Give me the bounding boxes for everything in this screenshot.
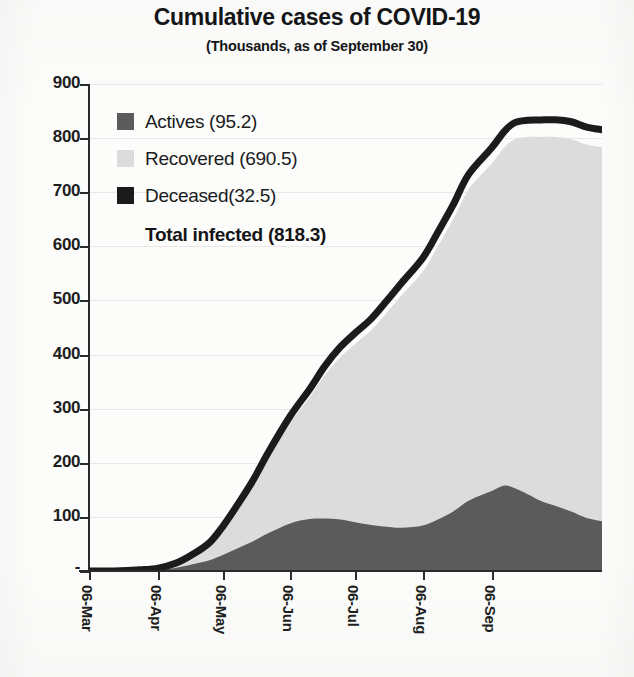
x-tick-label-06-Jul: 06-Jul [345, 585, 362, 627]
legend-label-actives: Actives (95.2) [145, 111, 257, 133]
y-tick-label-900: 900 [26, 73, 80, 93]
y-tick-mark-600 [80, 246, 89, 248]
y-tick-label-400: 400 [26, 344, 80, 364]
y-tick-label-300: 300 [26, 398, 80, 418]
y-tick-mark-400 [80, 355, 89, 357]
chart-legend: Actives (95.2) Recovered (690.5) Decease… [117, 103, 447, 246]
x-tick-label-06-Mar: 06-Mar [79, 585, 96, 632]
y-axis-labels-group: -100200300400500600700800900 [14, 0, 80, 677]
y-tick-mark-500 [80, 300, 89, 302]
y-axis-line [88, 84, 90, 573]
x-tick-mark-06-Jul [355, 571, 357, 580]
chart-page: Cumulative cases of COVID-19 (Thousands,… [0, 0, 634, 677]
x-tick-label-06-Aug: 06-Aug [413, 585, 430, 634]
legend-label-recovered: Recovered (690.5) [145, 148, 297, 170]
x-tick-label-06-Apr: 06-Apr [148, 585, 165, 631]
legend-item-deceased: Deceased(32.5) [117, 177, 447, 214]
y-tick-mark-300 [80, 409, 89, 411]
y-tick-label-600: 600 [26, 235, 80, 255]
x-tick-label-06-Sep: 06-Sep [482, 585, 499, 632]
y-tick-label-500: 500 [26, 289, 80, 309]
y-tick-label-200: 200 [26, 452, 80, 472]
x-tick-mark-06-May [223, 571, 225, 580]
x-tick-mark-06-Apr [158, 571, 160, 580]
y-tick-label-800: 800 [26, 127, 80, 147]
legend-item-recovered: Recovered (690.5) [117, 140, 447, 177]
y-tick-mark-800 [80, 138, 89, 140]
y-tick-label-100: 100 [26, 506, 80, 526]
y-tick-mark-900 [80, 84, 89, 86]
y-tick-mark-700 [80, 192, 89, 194]
legend-swatch-actives [117, 113, 134, 130]
y-tick-mark-100 [80, 517, 89, 519]
x-tick-mark-06-Sep [492, 571, 494, 580]
x-tick-mark-06-Mar [89, 571, 91, 580]
x-tick-mark-06-Jun [290, 571, 292, 580]
y-tick-label--: - [26, 557, 80, 577]
legend-total-infected: Total infected (818.3) [117, 224, 447, 246]
y-tick-mark-200 [80, 463, 89, 465]
x-tick-label-06-Jun: 06-Jun [280, 585, 297, 632]
chart-subtitle: (Thousands, as of September 30) [0, 38, 634, 54]
legend-item-actives: Actives (95.2) [117, 103, 447, 140]
legend-swatch-deceased [117, 187, 134, 204]
x-tick-mark-06-Aug [423, 571, 425, 580]
legend-swatch-recovered [117, 150, 134, 167]
legend-label-deceased: Deceased(32.5) [145, 185, 276, 207]
chart-title: Cumulative cases of COVID-19 [0, 4, 634, 31]
y-tick-label-700: 700 [26, 181, 80, 201]
y-tick-mark-- [80, 571, 89, 573]
x-tick-label-06-May: 06-May [213, 585, 230, 634]
